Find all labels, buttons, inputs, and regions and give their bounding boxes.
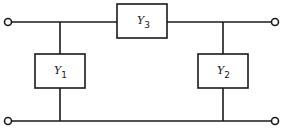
terminal-output-bottom (272, 118, 279, 125)
y1-admittance: Y1 (35, 54, 85, 88)
y2-admittance: Y2 (198, 54, 248, 88)
terminal-input-bottom (5, 118, 12, 125)
y3-admittance: Y3 (117, 4, 167, 38)
terminal-output-top (272, 19, 279, 26)
pi-network-diagram: Y3 Y1 Y2 (0, 0, 283, 138)
terminal-input-top (5, 19, 12, 26)
